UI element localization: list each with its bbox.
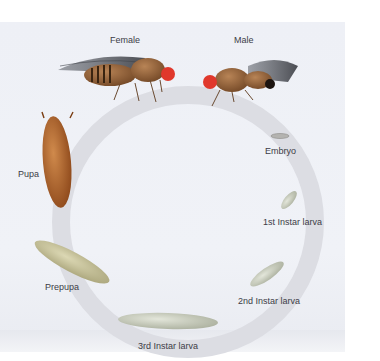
label-first-instar: 1st Instar larva — [263, 217, 322, 227]
label-female: Female — [110, 35, 140, 45]
label-male: Male — [234, 35, 254, 45]
life-cycle-diagram — [0, 0, 380, 361]
pupa-horns — [42, 112, 73, 118]
embryo-image — [271, 134, 289, 139]
second-instar-larva-image — [247, 258, 287, 291]
label-prepupa: Prepupa — [45, 282, 79, 292]
label-embryo: Embryo — [265, 146, 296, 156]
label-third-instar: 3rd Instar larva — [138, 341, 198, 351]
first-instar-larva-image — [278, 189, 299, 212]
label-pupa: Pupa — [18, 169, 39, 179]
label-second-instar: 2nd Instar larva — [238, 296, 300, 306]
